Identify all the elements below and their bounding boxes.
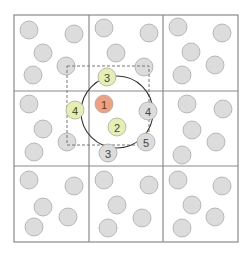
particle bbox=[65, 25, 83, 43]
particle bbox=[95, 171, 113, 189]
particle bbox=[25, 218, 43, 236]
particle bbox=[213, 177, 231, 195]
particle-label: 4 bbox=[145, 106, 151, 118]
particle bbox=[169, 171, 187, 189]
particle bbox=[173, 146, 191, 164]
particle bbox=[59, 208, 77, 226]
particle-label: 1 bbox=[101, 99, 107, 111]
particle bbox=[206, 56, 224, 74]
particle-label: 3 bbox=[105, 148, 111, 160]
neighbor-particle: 2 bbox=[108, 118, 126, 136]
candidate-particle: 3 bbox=[99, 144, 117, 162]
labeled-particles: 1342453 bbox=[66, 68, 157, 162]
candidate-particle: 4 bbox=[139, 102, 157, 120]
particle bbox=[173, 219, 191, 237]
particle bbox=[107, 44, 125, 62]
particle bbox=[24, 66, 42, 84]
particle bbox=[183, 196, 201, 214]
particle bbox=[65, 177, 83, 195]
particle bbox=[133, 209, 151, 227]
particle bbox=[108, 196, 126, 214]
particle bbox=[34, 198, 52, 216]
particle bbox=[214, 100, 232, 118]
candidate-particle: 5 bbox=[137, 133, 155, 151]
particle bbox=[99, 219, 117, 237]
particle bbox=[207, 133, 225, 151]
particle bbox=[20, 171, 38, 189]
particle-label: 4 bbox=[72, 105, 78, 117]
particle bbox=[34, 120, 52, 138]
particle bbox=[34, 44, 52, 62]
particle bbox=[95, 19, 113, 37]
particle bbox=[183, 121, 201, 139]
query-particle: 1 bbox=[95, 95, 113, 113]
neighbor-search-diagram: 1342453 bbox=[0, 0, 251, 256]
particle-label: 5 bbox=[143, 137, 149, 149]
particle bbox=[173, 66, 191, 84]
particle bbox=[213, 24, 231, 42]
particle bbox=[20, 21, 38, 39]
particle-label: 2 bbox=[114, 122, 120, 134]
particle bbox=[140, 176, 158, 194]
particle bbox=[25, 143, 43, 161]
particle bbox=[206, 208, 224, 226]
particle bbox=[135, 58, 153, 76]
particle bbox=[178, 95, 196, 113]
particle-label: 3 bbox=[104, 72, 110, 84]
particle bbox=[169, 18, 187, 36]
particle bbox=[182, 43, 200, 61]
neighbor-particle: 4 bbox=[66, 101, 84, 119]
particle bbox=[140, 24, 158, 42]
neighbor-particle: 3 bbox=[98, 68, 116, 86]
particle bbox=[20, 95, 38, 113]
